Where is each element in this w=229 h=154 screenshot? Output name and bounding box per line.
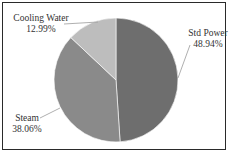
label-std-power-name: Std Power — [186, 28, 229, 39]
label-cooling-water-pct: 12.99% — [6, 24, 76, 35]
label-cooling-water-name: Cooling Water — [6, 13, 76, 24]
label-cooling-water: Cooling Water 12.99% — [6, 13, 76, 35]
pie-slice-std-power — [116, 18, 178, 142]
label-std-power: Std Power 48.94% — [186, 28, 229, 50]
label-steam-name: Steam — [9, 113, 45, 124]
label-steam-pct: 38.06% — [9, 124, 45, 135]
label-std-power-pct: 48.94% — [186, 39, 229, 50]
label-steam: Steam 38.06% — [9, 113, 45, 135]
